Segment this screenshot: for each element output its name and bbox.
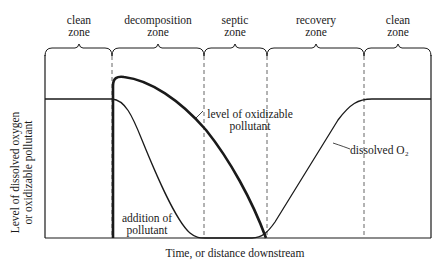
zone-boundaries (112, 56, 364, 238)
o2-pointer (333, 143, 350, 149)
zone-label-line: clean (348, 14, 444, 26)
annotation-line: level of oxidizable (200, 108, 300, 120)
addition-of-pollutant-annotation: addition of pollutant (117, 212, 177, 236)
pollutant-annotation: level of oxidizable pollutant (200, 108, 300, 132)
diagram-canvas (0, 0, 444, 266)
annotation-line: pollutant (200, 120, 300, 132)
y-axis-label-line: Level of dissolved oxygen (9, 98, 22, 248)
y-axis-label: Level of dissolved oxygen or oxidizable … (9, 98, 34, 248)
zone-label-line: zone (348, 26, 444, 38)
dissolved-o2-annotation: dissolved O₂ (350, 144, 409, 156)
zone-label-clean-2: clean zone (348, 14, 444, 38)
annotation-line: addition of (117, 212, 177, 224)
y-axis-label-line: or oxidizable pollutant (21, 98, 34, 248)
annotation-line: pollutant (117, 224, 177, 236)
zone-braces (45, 44, 431, 56)
x-axis-label: Time, or distance downstream (160, 247, 310, 259)
